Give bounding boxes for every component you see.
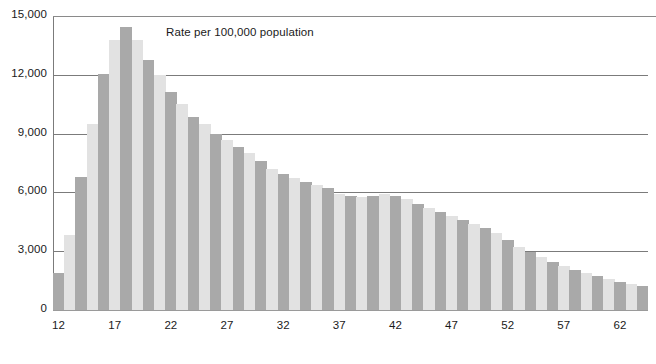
x-tick-12: 12 bbox=[52, 319, 65, 331]
x-tick-57: 57 bbox=[557, 319, 570, 331]
x-tick-52: 52 bbox=[501, 319, 514, 331]
x-tick-22: 22 bbox=[164, 319, 177, 331]
x-tick-32: 32 bbox=[277, 319, 290, 331]
x-tick-47: 47 bbox=[445, 319, 458, 331]
bar-chart: 03,0006,0009,00012,00015,000 12172227323… bbox=[0, 0, 656, 364]
x-tick-27: 27 bbox=[221, 319, 234, 331]
x-tick-62: 62 bbox=[613, 319, 626, 331]
x-axis-tick-labels: 1217222732374247525762 bbox=[0, 0, 656, 364]
x-tick-42: 42 bbox=[389, 319, 402, 331]
x-tick-37: 37 bbox=[333, 319, 346, 331]
x-tick-17: 17 bbox=[108, 319, 121, 331]
chart-annotation: Rate per 100,000 population bbox=[166, 26, 314, 38]
